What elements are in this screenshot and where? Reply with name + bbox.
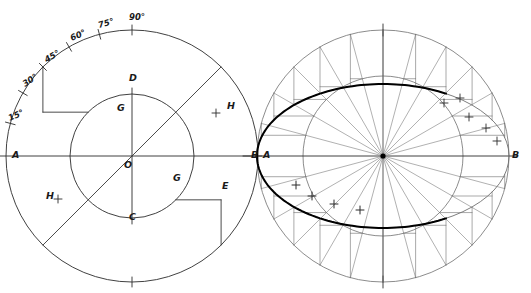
right-point-label-b: B bbox=[512, 150, 519, 160]
right-radial-ray bbox=[274, 93, 383, 156]
right-radial-ray bbox=[383, 47, 446, 156]
left-angle-tick bbox=[19, 91, 28, 96]
left-point-label-b: B bbox=[251, 150, 258, 160]
right-radial-ray bbox=[294, 156, 383, 245]
left-point-label-a: A bbox=[12, 150, 19, 160]
right-radial-ray bbox=[261, 123, 383, 156]
drawing-sheet: 15° 30° 45° 60° 75° 90° A B D C O G G E … bbox=[0, 0, 531, 293]
angle-label-90: 90° bbox=[129, 13, 145, 22]
right-center-dot bbox=[380, 153, 385, 158]
left-point-label-o: O bbox=[124, 160, 132, 170]
right-panel-geometry bbox=[243, 24, 517, 288]
left-panel-geometry bbox=[0, 25, 262, 287]
right-radial-ray bbox=[320, 156, 383, 265]
right-radial-ray bbox=[320, 47, 383, 156]
left-point-label-e: E bbox=[222, 181, 229, 191]
left-point-label-c: C bbox=[129, 212, 136, 222]
left-point-label-h-upper: H bbox=[227, 101, 235, 111]
right-radial-ray bbox=[383, 156, 505, 189]
right-radial-ray bbox=[294, 67, 383, 156]
left-point-label-h-lower: H bbox=[46, 191, 54, 201]
right-radial-ray bbox=[383, 156, 416, 278]
right-radial-ray bbox=[274, 156, 383, 219]
right-radial-ray bbox=[350, 156, 383, 278]
right-point-label-a: A bbox=[263, 150, 270, 160]
left-point-label-d: D bbox=[129, 73, 137, 83]
left-angle-tick bbox=[67, 43, 72, 52]
right-radial-ray bbox=[383, 156, 472, 245]
technical-drawing-canvas bbox=[0, 0, 531, 293]
right-radial-ray bbox=[383, 93, 492, 156]
right-radial-ray bbox=[383, 156, 446, 265]
left-point-label-g-lower: G bbox=[173, 173, 181, 183]
left-point-label-g-upper: G bbox=[117, 103, 125, 113]
right-radial-ray bbox=[261, 156, 383, 189]
right-radial-ray bbox=[350, 34, 383, 156]
right-radial-ray bbox=[383, 156, 492, 219]
right-radial-ray bbox=[383, 34, 416, 156]
right-radial-ray bbox=[383, 67, 472, 156]
